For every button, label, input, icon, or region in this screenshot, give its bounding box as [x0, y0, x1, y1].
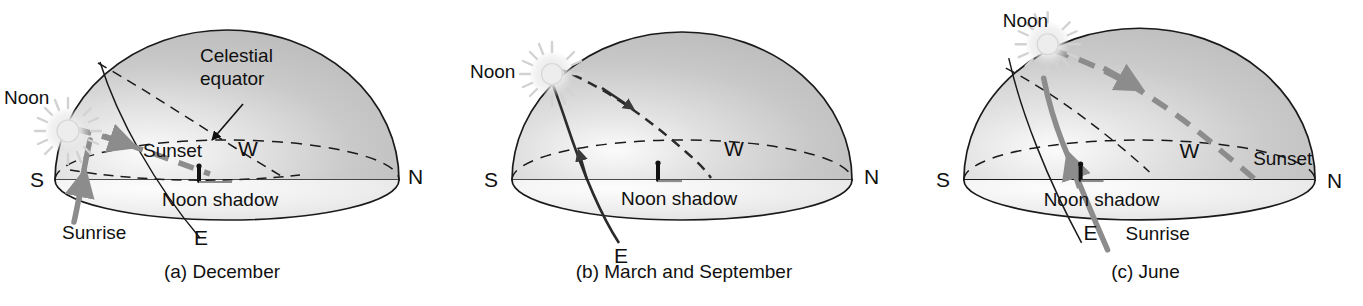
label-noon-shadow: Noon shadow	[162, 189, 278, 210]
label-sunset: Sunset	[143, 140, 203, 161]
label-celestial-equator-line2: equator	[200, 68, 265, 89]
panel-march-september: Noon Noon shadow S N E W (b) March and S…	[454, 0, 908, 306]
label-sunset: Sunset	[1253, 148, 1313, 169]
label-sunrise: Sunrise	[62, 222, 126, 243]
panel-june: Noon Sunset Sunrise Noon shadow S N E W …	[908, 0, 1363, 306]
cardinal-south: S	[484, 168, 498, 191]
cardinal-west: W	[238, 137, 258, 160]
label-noon: Noon	[470, 61, 515, 82]
cardinal-west: W	[1179, 139, 1199, 162]
cardinal-west: W	[724, 137, 744, 160]
label-celestial-equator-line1: Celestial	[200, 45, 273, 66]
cardinal-east: E	[1084, 221, 1098, 244]
sun-icon	[520, 42, 584, 106]
label-noon-shadow: Noon shadow	[621, 188, 737, 209]
cardinal-south: S	[30, 168, 44, 191]
panel-caption-december: (a) December	[164, 261, 281, 282]
sun-path-figure: Noon Sunrise Sunset Celestial equator No…	[0, 0, 1363, 306]
cardinal-north: N	[408, 165, 423, 188]
cardinal-south: S	[936, 168, 950, 191]
label-noon: Noon	[1003, 10, 1048, 31]
cardinal-north: N	[864, 165, 879, 188]
panel-caption-march-september: (b) March and September	[576, 261, 793, 282]
cardinal-north: N	[1327, 169, 1342, 192]
label-noon: Noon	[4, 87, 49, 108]
panel-december: Noon Sunrise Sunset Celestial equator No…	[0, 0, 454, 306]
label-sunrise: Sunrise	[1126, 223, 1190, 244]
panel-caption-june: (c) June	[1111, 261, 1179, 282]
cardinal-east: E	[194, 226, 208, 249]
label-noon-shadow: Noon shadow	[1044, 189, 1160, 210]
